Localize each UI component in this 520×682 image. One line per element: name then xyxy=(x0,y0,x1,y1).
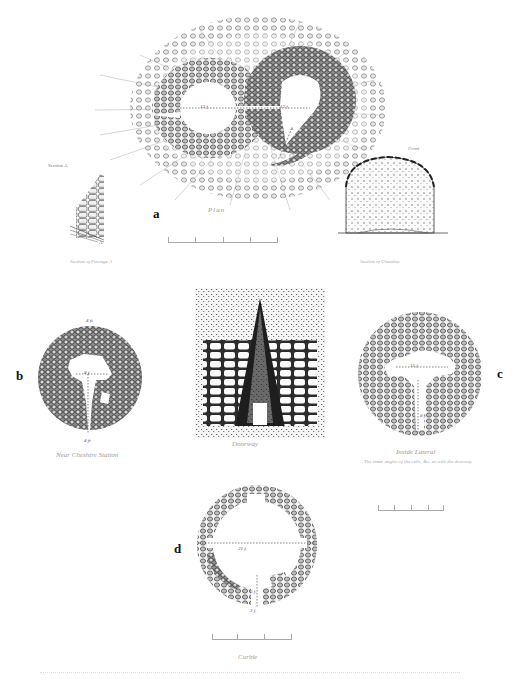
figure-a-measure-left: 12 f. xyxy=(200,104,209,109)
figure-c-caption: Inside Lateral xyxy=(396,448,435,456)
figure-d-measure-diameter: 21 f. xyxy=(238,546,247,551)
doorway-caption: Doorway xyxy=(232,440,258,448)
section-a-drawing xyxy=(68,170,108,240)
figure-b-measure-mid: 8 f. xyxy=(84,370,90,375)
figure-d-measure-passage-inner: 3 f. xyxy=(250,589,256,594)
figure-b-measure-bottom: 4 ft xyxy=(84,438,91,443)
figure-b-measure-top: 4 ft xyxy=(86,318,93,323)
chamber-front-label: Front xyxy=(408,146,419,151)
figure-c-scale-bar xyxy=(378,504,444,511)
figure-c-measure-horizontal: 15 f. xyxy=(410,363,419,368)
chamber-section-caption: Section of Chamber xyxy=(360,259,400,264)
figure-a-scale-bar xyxy=(168,236,278,243)
figure-d-caption: Curbie xyxy=(238,653,257,661)
panel-label-d: d xyxy=(174,541,181,557)
panel-label-b: b xyxy=(16,368,23,384)
figure-a-caption: Plan xyxy=(208,206,225,214)
figure-b-caption: Near Cheshire Station xyxy=(56,451,118,459)
chamber-section-drawing xyxy=(338,155,448,235)
figure-a-measure-right: 12 f. xyxy=(280,104,289,109)
figure-a-passage-marker: A xyxy=(290,126,293,131)
plate-footer-text xyxy=(40,672,460,674)
section-a-label: Section A xyxy=(48,163,68,168)
section-a-marker: A xyxy=(99,240,103,245)
figure-d-plan-drawing xyxy=(193,480,323,610)
panel-label-a: a xyxy=(153,206,160,222)
panel-label-c: c xyxy=(497,366,503,382)
figure-b-plan-drawing xyxy=(36,322,146,442)
figure-d-measure-passage-outer: 3 f. xyxy=(250,608,256,613)
doorway-drawing xyxy=(195,288,325,438)
section-a-caption: Section of Passage A xyxy=(70,259,112,264)
figure-c-plan-drawing xyxy=(356,310,486,440)
figure-d-scale-bar xyxy=(212,633,292,640)
figure-c-subcaption: The inner angles of the cells, &c. as wi… xyxy=(364,459,472,464)
figure-c-measure-vertical: 8 f. xyxy=(420,413,426,418)
